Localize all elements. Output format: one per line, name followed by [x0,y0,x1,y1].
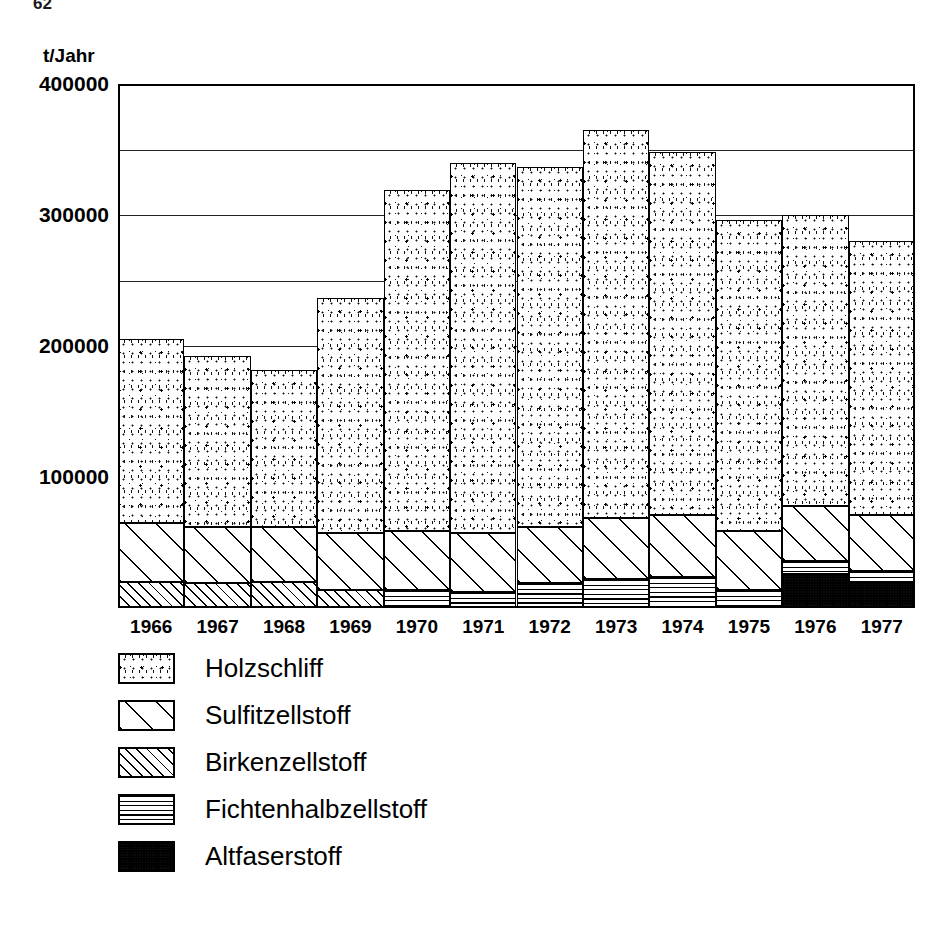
bar-column[interactable] [184,356,250,608]
bar-segment[interactable] [649,152,715,515]
bar-segment[interactable] [184,356,250,526]
bar-segment[interactable] [583,579,649,608]
bar-column[interactable] [118,339,184,608]
bar-segment[interactable] [849,571,915,583]
x-axis-tick-label: 1973 [583,616,649,638]
bar-segment[interactable] [716,220,782,530]
bar-segment[interactable] [849,515,915,571]
bar-segment[interactable] [649,515,715,577]
bar-segment[interactable] [118,582,184,608]
bar-segment[interactable] [782,561,848,574]
bar-segment[interactable] [716,590,782,608]
bar-segment[interactable] [317,298,383,534]
y-axis-tick-label: 100000 [39,465,109,489]
x-axis-tick-label: 1971 [450,616,516,638]
bar-column[interactable] [649,152,715,608]
y-axis-tick-label: 200000 [39,334,109,358]
bar-column[interactable] [849,241,915,608]
x-axis-tick-label: 1972 [517,616,583,638]
bar-segment[interactable] [583,130,649,518]
bar-segment[interactable] [849,241,915,515]
bar-segment[interactable] [849,583,915,608]
legend-item[interactable]: Birkenzellstoff [118,739,427,786]
bar-segment[interactable] [517,527,583,583]
legend-swatch [118,794,175,825]
x-axis-tick-label: 1976 [782,616,848,638]
legend-label: Sulfitzellstoff [205,700,350,731]
plot-area [118,84,915,608]
bar-column[interactable] [450,163,516,608]
legend-swatch [118,700,175,731]
x-axis-tick-label: 1967 [184,616,250,638]
legend-item[interactable]: Fichtenhalbzellstoff [118,786,427,833]
legend-item[interactable]: Sulfitzellstoff [118,692,427,739]
bar-column[interactable] [517,167,583,608]
bar-segment[interactable] [384,590,450,608]
y-axis-tick-label: 300000 [39,203,109,227]
x-axis-tick-label: 1968 [251,616,317,638]
bar-segment[interactable] [251,582,317,608]
legend-swatch [118,747,175,778]
bar-column[interactable] [317,298,383,608]
bar-segment[interactable] [184,527,250,583]
bar-segment[interactable] [782,574,848,608]
y-axis-title: t/Jahr [43,45,95,67]
legend-item[interactable]: Altfaserstoff [118,833,427,880]
bar-segment[interactable] [716,531,782,590]
bar-segment[interactable] [384,190,450,531]
legend-swatch [118,653,175,684]
bar-segment[interactable] [649,577,715,608]
bar-column[interactable] [782,215,848,608]
bar-segment[interactable] [317,590,383,608]
bar-segment[interactable] [184,583,250,608]
bar-segment[interactable] [450,592,516,608]
stacked-bar-chart: t/Jahr 400000300000200000100000 19661967… [0,0,929,932]
x-axis-tick-label: 1977 [849,616,915,638]
chart-legend: HolzschliffSulfitzellstoffBirkenzellstof… [118,645,427,880]
bar-column[interactable] [384,190,450,608]
legend-label: Altfaserstoff [205,841,342,872]
bar-segment[interactable] [317,533,383,589]
x-axis-tick-label: 1970 [384,616,450,638]
bar-segment[interactable] [118,339,184,522]
bar-series-layer [118,84,915,608]
bar-segment[interactable] [517,167,583,527]
legend-item[interactable]: Holzschliff [118,645,427,692]
bar-segment[interactable] [782,215,848,506]
bar-segment[interactable] [251,370,317,527]
bar-column[interactable] [583,130,649,608]
bar-segment[interactable] [251,527,317,582]
bar-segment[interactable] [450,163,516,534]
bar-column[interactable] [716,220,782,608]
bar-column[interactable] [251,370,317,608]
bar-segment[interactable] [450,533,516,592]
bar-segment[interactable] [583,518,649,580]
legend-label: Holzschliff [205,653,323,684]
x-axis-tick-label: 1966 [118,616,184,638]
x-axis-tick-label: 1975 [716,616,782,638]
legend-label: Fichtenhalbzellstoff [205,794,427,825]
x-axis-tick-label: 1974 [649,616,715,638]
x-axis-tick-label: 1969 [317,616,383,638]
bar-segment[interactable] [384,531,450,590]
y-axis-tick-label: 400000 [39,72,109,96]
bar-segment[interactable] [118,523,184,582]
bar-segment[interactable] [782,506,848,561]
legend-label: Birkenzellstoff [205,747,366,778]
legend-swatch [118,841,175,872]
bar-segment[interactable] [517,583,583,608]
